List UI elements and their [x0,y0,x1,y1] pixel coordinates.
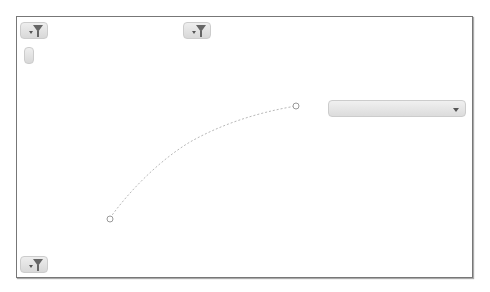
trend-end-marker [293,103,299,109]
chevron-down-icon[interactable] [453,108,459,112]
filter-icon[interactable] [29,259,43,271]
trend-start-marker [107,216,113,222]
legend-account-number-dropdown[interactable] [328,100,466,117]
trendline [0,0,490,292]
axis-field-period-id[interactable] [20,256,48,273]
